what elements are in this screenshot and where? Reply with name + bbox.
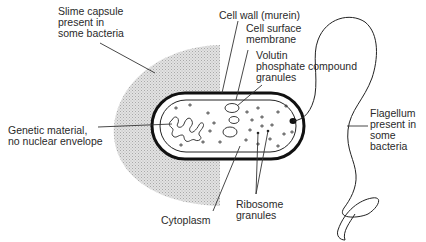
label-cell-wall: Cell wall (murein) xyxy=(219,10,300,21)
leader-slime-capsule xyxy=(100,43,155,73)
label-genetic-material: Genetic material, no nuclear envelope xyxy=(8,125,103,147)
leader-cell-wall xyxy=(222,21,238,93)
label-cytoplasm: Cytoplasm xyxy=(161,215,211,226)
label-volutin: Volutin phosphate compound granules xyxy=(256,50,357,83)
label-slime-capsule: Slime capsule present in some bacteria xyxy=(58,6,124,39)
label-ribosome: Ribosome granules xyxy=(236,199,283,221)
label-flagellum: Flagellum present in some bacteria xyxy=(370,108,416,152)
label-cell-membrane: Cell surface membrane xyxy=(246,23,301,45)
